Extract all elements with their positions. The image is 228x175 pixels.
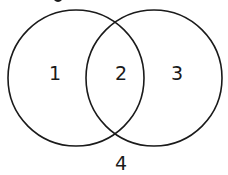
region-label-2: 2 (115, 62, 127, 84)
top-cutoff-mark (54, 0, 62, 2)
region-label-4: 4 (115, 152, 127, 174)
right-circle (86, 10, 222, 146)
region-label-1: 1 (49, 62, 61, 84)
venn-diagram: 1 2 3 4 (0, 0, 228, 175)
region-label-3: 3 (171, 62, 183, 84)
